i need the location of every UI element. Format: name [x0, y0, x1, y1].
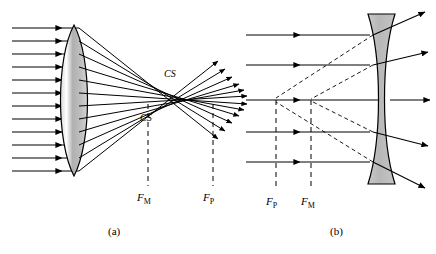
label-focal-marginal-b-letter: F [301, 195, 308, 207]
label-focal-paraxial-a: FP [203, 192, 214, 206]
converging-lens [61, 25, 88, 176]
label-focal-paraxial-a-sub: P [210, 197, 214, 206]
panel-b-focal-markers [276, 100, 311, 190]
panel-a-focal-markers [148, 104, 213, 186]
diverging-lens [368, 14, 395, 184]
label-focal-marginal-b: FM [301, 196, 315, 210]
label-focal-marginal-b-sub: M [308, 201, 315, 210]
optics-figure-svg [0, 0, 436, 254]
caption-panel-b: (b) [330, 226, 343, 237]
label-focal-marginal-a-sub: M [144, 197, 151, 206]
caption-panel-a: (a) [108, 226, 120, 237]
figure-container: CS CS FM FP FP FM (a) (b) [0, 0, 436, 254]
panel-b-group [246, 12, 430, 190]
panel-b-virtual-extensions [276, 35, 373, 162]
label-focal-paraxial-a-letter: F [203, 191, 210, 203]
panel-a-incoming-rays [12, 28, 62, 171]
label-focal-paraxial-b-letter: F [266, 195, 273, 207]
label-focal-marginal-a: FM [137, 192, 151, 206]
panel-a-group [12, 25, 247, 186]
label-cs-lower: CS [140, 113, 152, 123]
panel-a-refracted-rays [79, 28, 247, 171]
panel-b-incoming-rays [246, 35, 300, 162]
label-cs-upper: CS [164, 69, 176, 79]
label-focal-paraxial-b-sub: P [273, 201, 277, 210]
label-focal-marginal-a-letter: F [137, 191, 144, 203]
label-focal-paraxial-b: FP [266, 196, 277, 210]
